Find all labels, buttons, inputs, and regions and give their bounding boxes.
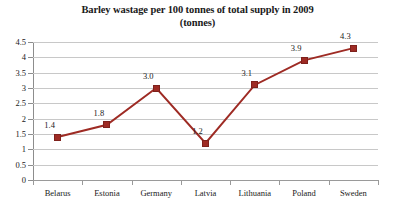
data-point-marker[interactable] — [153, 85, 160, 92]
data-point-label: 4.3 — [331, 32, 359, 41]
data-point-label: 1.2 — [184, 127, 212, 136]
data-point-label: 1.4 — [36, 121, 64, 130]
data-point-marker[interactable] — [202, 140, 209, 147]
data-point-label: 1.8 — [85, 109, 113, 118]
data-point-marker[interactable] — [54, 134, 61, 141]
data-point-marker[interactable] — [103, 121, 110, 128]
data-point-label: 3.9 — [282, 44, 310, 53]
data-point-label: 3.0 — [134, 72, 162, 81]
chart-container: Barley wastage per 100 tonnes of total s… — [0, 0, 395, 212]
data-point-marker[interactable] — [350, 45, 357, 52]
data-point-marker[interactable] — [301, 57, 308, 64]
data-point-marker[interactable] — [251, 81, 258, 88]
data-point-label: 3.1 — [233, 69, 261, 78]
